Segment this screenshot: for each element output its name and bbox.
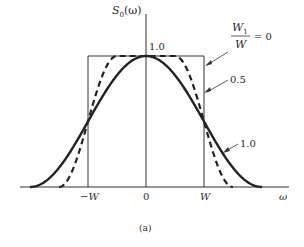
arrow-head-icon (205, 60, 212, 66)
y-tick-1.0: 1.0 (149, 41, 165, 52)
x-tick-zero: 0 (143, 191, 149, 202)
svg-text:W: W (235, 38, 248, 51)
svg-text:= 0: = 0 (254, 31, 272, 42)
annotation-rolloff-0: W1 W = 0 (205, 21, 272, 66)
x-tick-pos-w: W (200, 191, 211, 202)
annotation-rolloff-0.5: 0.5 (204, 74, 246, 93)
svg-text:1.0: 1.0 (240, 138, 256, 149)
figure-caption: (a) (139, 223, 151, 233)
x-axis-label: ω (279, 191, 287, 202)
arrow-head-icon (223, 147, 230, 153)
annotation-rolloff-1.0: 1.0 (223, 138, 256, 153)
svg-text:W1: W1 (232, 21, 248, 36)
svg-text:0.5: 0.5 (230, 74, 246, 85)
raised-cosine-spectrum-chart: S0(ω) 1.0 −W 0 W ω W1 W = 0 0.5 1.0 (a) (0, 0, 304, 247)
y-axis-label: S0(ω) (112, 4, 142, 19)
x-tick-neg-w: −W (80, 191, 99, 202)
